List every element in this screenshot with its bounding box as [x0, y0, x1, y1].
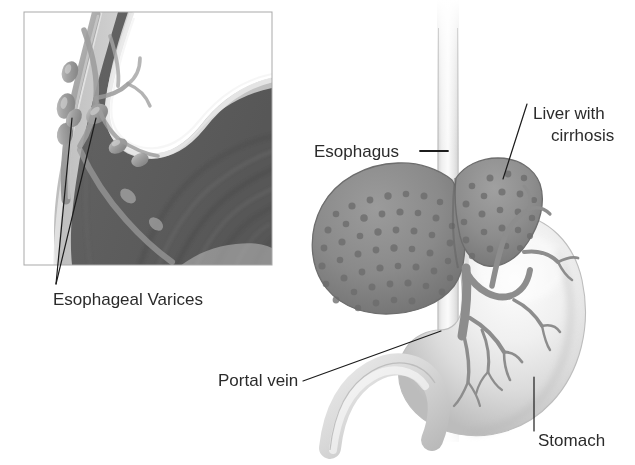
label-esophagus: Esophagus	[314, 142, 399, 161]
label-esophageal-varices: Esophageal Varices	[53, 290, 203, 309]
esophagus-varices-inset	[24, 12, 282, 266]
label-portal-vein: Portal vein	[218, 371, 298, 390]
illustration-canvas: Esophageal Varices Esophagus Liver with …	[0, 0, 635, 465]
label-liver-line-1: Liver with	[533, 104, 605, 123]
medical-illustration-figure: Esophageal Varices Esophagus Liver with …	[0, 0, 635, 465]
label-stomach: Stomach	[538, 431, 605, 450]
label-liver-line-2: cirrhosis	[551, 126, 614, 145]
